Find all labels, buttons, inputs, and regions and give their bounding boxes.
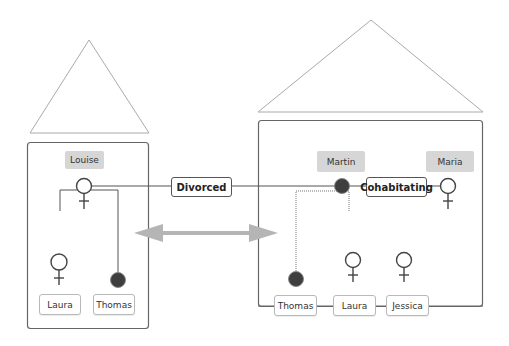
laura-right-name-label[interactable]: Laura	[333, 295, 376, 316]
laura-left-name-label[interactable]: Laura	[39, 294, 81, 315]
martin-male-icon	[335, 179, 350, 194]
divorced-relationship-label[interactable]: Divorced	[171, 177, 232, 197]
laura-left-female-icon	[51, 254, 67, 285]
martin-name-label[interactable]: Martin	[317, 151, 365, 172]
jessica-female-icon	[397, 253, 412, 283]
cohabitating-relationship-label[interactable]: Cohabitating	[366, 177, 427, 197]
laura-right-female-icon	[346, 253, 361, 283]
jessica-name-label[interactable]: Jessica	[386, 295, 429, 316]
martin-child-connector	[296, 191, 349, 275]
louise-name-label[interactable]: Louise	[65, 151, 104, 169]
left-house-roof	[30, 40, 149, 133]
louise-child-connector	[60, 190, 118, 240]
right-house-roof	[258, 20, 483, 112]
thomas-right-name-label[interactable]: Thomas	[274, 295, 317, 316]
thomas-left-male-icon	[111, 273, 126, 288]
thomas-left-name-label[interactable]: Thomas	[93, 294, 135, 315]
maria-name-label[interactable]: Maria	[426, 151, 474, 172]
louise-female-icon	[77, 179, 92, 210]
thomas-right-male-icon	[289, 272, 304, 287]
maria-female-icon	[441, 179, 456, 210]
double-headed-arrow-icon	[134, 224, 278, 242]
